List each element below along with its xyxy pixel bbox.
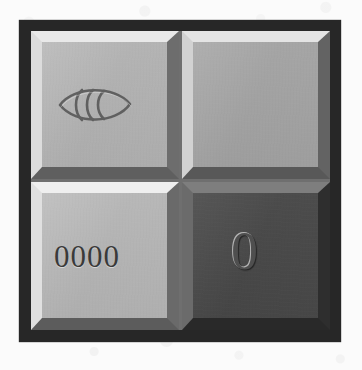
tile-zeros-label: 0000 <box>54 241 120 272</box>
tile-zero-dark-label: 0 <box>231 224 258 278</box>
eye-icon <box>56 82 136 128</box>
tile-blank-face <box>193 42 318 167</box>
tile-grid: 0000 0 <box>31 31 330 330</box>
panel-frame-inner: 0000 0 <box>31 31 330 330</box>
tile-zero-dark[interactable]: 0 <box>182 182 330 330</box>
page-canvas: 0000 0 <box>0 0 362 370</box>
tile-zeros[interactable]: 0000 <box>31 182 179 330</box>
tile-blank[interactable] <box>182 31 330 179</box>
panel-frame: 0000 0 <box>19 20 341 342</box>
tile-eye[interactable] <box>31 31 179 179</box>
